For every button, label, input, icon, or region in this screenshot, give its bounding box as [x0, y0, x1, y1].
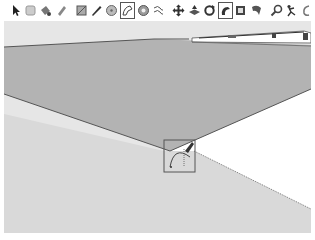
tool-walk[interactable] [284, 2, 298, 19]
offset-icon [250, 4, 263, 17]
tool-zoom[interactable] [269, 2, 283, 19]
tool-line[interactable] [89, 2, 103, 19]
pencil-line-icon [90, 4, 103, 17]
structure-block [303, 33, 308, 40]
tool-push-pull[interactable] [187, 2, 201, 19]
walk-icon [285, 4, 298, 17]
tool-arc[interactable] [120, 2, 135, 19]
tool-orbit[interactable] [300, 2, 314, 19]
paint-bucket-icon [39, 4, 52, 17]
tape-measure-icon [55, 4, 68, 17]
tool-paint-bucket[interactable] [39, 2, 53, 19]
follow-me-icon [219, 4, 232, 17]
tool-rotate[interactable] [202, 2, 216, 19]
tool-tape[interactable] [54, 2, 68, 19]
circle-icon [105, 4, 118, 17]
tool-polygon[interactable] [136, 2, 150, 19]
tool-rectangle[interactable] [74, 2, 88, 19]
structure-block [272, 33, 276, 38]
arc-icon [121, 4, 134, 17]
orbit-icon [300, 4, 313, 17]
scene-canvas[interactable] [4, 21, 311, 233]
arrow-cursor-icon [9, 4, 22, 17]
tool-move[interactable] [172, 2, 186, 19]
tool-freehand[interactable] [151, 2, 165, 19]
move-icon [172, 4, 185, 17]
structure-block [228, 35, 236, 38]
push-pull-icon [188, 4, 201, 17]
rectangle-icon [75, 4, 88, 17]
tool-scale[interactable] [234, 2, 248, 19]
tool-eraser[interactable] [23, 2, 37, 19]
freehand-icon [152, 4, 165, 17]
tool-circle[interactable] [105, 2, 119, 19]
scale-icon [234, 4, 247, 17]
tool-offset[interactable] [249, 2, 263, 19]
toolbar [0, 0, 315, 21]
drawing-viewport[interactable] [4, 21, 311, 233]
rotate-icon [203, 4, 216, 17]
eraser-icon [24, 4, 37, 17]
tool-select[interactable] [8, 2, 22, 19]
zoom-magnifier-icon [270, 4, 283, 17]
polygon-icon [137, 4, 150, 17]
tool-follow-me[interactable] [218, 2, 233, 19]
